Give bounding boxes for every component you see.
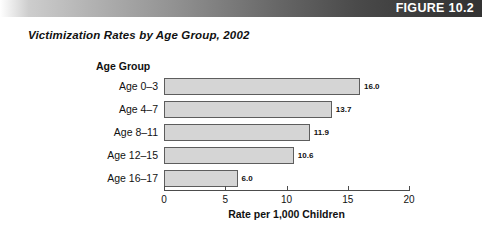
bar [164, 101, 332, 118]
x-axis-tick [287, 186, 288, 191]
bar-value-label: 13.7 [336, 101, 352, 118]
bar-value-label: 11.9 [314, 124, 329, 141]
x-axis-tick [409, 186, 410, 191]
bar [164, 170, 238, 187]
bar-category-label: Age 4–7 [18, 101, 158, 118]
bar-row: Age 4–713.7 [0, 101, 482, 118]
category-axis-title: Age Group [96, 60, 150, 72]
x-axis-tick-label: 0 [144, 194, 184, 205]
x-axis-tick [164, 186, 165, 191]
bar-category-label: Age 0–3 [18, 78, 158, 95]
bar-row: Age 8–1111.9 [0, 124, 482, 141]
bar [164, 147, 294, 164]
x-axis-tick [348, 186, 349, 191]
bar [164, 124, 310, 141]
bar [164, 78, 360, 95]
x-axis-tick-label: 20 [389, 194, 429, 205]
bar-value-label: 6.0 [242, 170, 253, 187]
bar-category-label: Age 8–11 [18, 124, 158, 141]
bar-value-label: 16.0 [364, 78, 380, 95]
bar-category-label: Age 16–17 [18, 170, 158, 187]
x-axis-tick-label: 15 [328, 194, 368, 205]
chart-plot-area: Age Group Age 0–316.0Age 4–713.7Age 8–11… [0, 0, 482, 230]
bar-value-label: 10.6 [298, 147, 314, 164]
bar-row: Age 16–176.0 [0, 170, 482, 187]
bar-row: Age 0–316.0 [0, 78, 482, 95]
bar-row: Age 12–1510.6 [0, 147, 482, 164]
figure-container: FIGURE 10.2 Victimization Rates by Age G… [0, 0, 482, 230]
x-axis-tick-label: 5 [205, 194, 245, 205]
x-axis-tick-label: 10 [267, 194, 307, 205]
x-axis-tick [225, 186, 226, 191]
bar-category-label: Age 12–15 [18, 147, 158, 164]
x-axis-title: Rate per 1,000 Children [164, 208, 409, 220]
